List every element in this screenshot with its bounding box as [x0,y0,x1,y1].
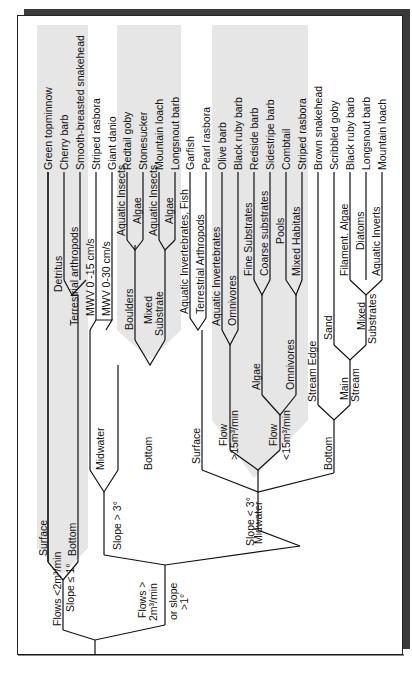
condition-label: Flows <2m³/min [51,551,63,626]
condition-label: Slope > 3° [111,501,123,550]
leaf-label: Stonesucker [137,111,149,170]
leaf-label: Giant danio [106,116,118,170]
food-label: Terrestrial Arthropods [194,214,206,314]
food-label: Aquatic Invertebrates, Fish [178,189,190,314]
velocity-label: MWV 0-30 cm/s [100,241,112,316]
leaf-label: Pearl rasbora [200,107,212,170]
leaf-label: Brown snakehead [312,86,324,170]
leaf-label: Mountain loach [153,99,165,170]
leaf-label: Green topminnow [42,87,54,170]
leaf-label: Black ruby barb [344,97,356,170]
fish-habitat-tree: Green topminnow Cherry barb Smooth-breas… [0,0,412,679]
substrate-label: Coarse substrates [258,191,270,276]
leaf-label: Redtail goby [121,111,133,170]
leaf-label: Combtail [280,129,292,170]
habitat-label: Surface [37,520,49,556]
habitat-label: Surface [190,428,202,464]
food-label: Filament. Algae [338,203,350,276]
leaf-label: Redside barb [248,107,260,170]
leaf-label: Olive barb [216,122,228,170]
condition-label: 2m³/min [147,583,159,621]
substrate-label: Pools [274,218,286,244]
food-label: Aquatic Inverts [370,207,382,276]
substrate-label: Mixed Habitats [290,207,302,276]
food-label: Algae [250,363,262,390]
leaf-label: Garfish [184,136,196,170]
leaf-label: Longsnout barb [169,97,181,170]
food-label: Terrestrial arthropods [68,227,80,326]
habitat-label: Midwater [252,501,264,544]
leaf-label: Mountain loach [376,99,388,170]
food-label: Aquatic Insects [147,165,159,236]
leaf-label: Scribbled goby [328,100,340,170]
substrate-label: Substrates [366,294,378,344]
habitat-label: Bottom [322,436,334,470]
leaf-label: Cherry barb [58,114,70,170]
food-label: Omnivores [226,275,238,326]
condition-label: Slope ≤ 1° [64,564,76,613]
food-label: Diatoms [354,211,366,250]
habitat-label: Bottom [66,522,78,556]
food-label: Detritus [52,256,64,292]
food-label: Aquatic Invertebrates [210,227,222,326]
habitat-label: Bottom [142,436,154,470]
food-label: Omnivores [284,339,296,390]
substrate-label: Sand [322,315,334,340]
flow-label: Flow [267,423,279,446]
leaf-label: Sidestripe barb [264,99,276,170]
zone-label: Stream Edge [306,341,318,402]
leaf-label: Smooth-breasted snakehead [74,35,86,170]
zone-label: Stream [349,368,361,402]
leaf-label: Striped rasbora [296,98,308,170]
food-label: Algae [163,197,175,224]
flow-label: <15m³/min [280,410,292,460]
leaf-label: Black ruby barb [232,97,244,170]
branch-labels: Flows <2m³/min Slope ≤ 1° Flows > 2m³/mi… [37,165,382,626]
flow-label: >15m³/min [228,410,240,460]
substrate-label: Fine Substrates [242,202,254,276]
leaf-label: Longsnout barb [360,97,372,170]
velocity-label: MWV 0 -15 cm/s [84,238,96,316]
leaf-label: Striped rasbora [90,98,102,170]
food-label: Aquatic Insects [115,165,127,236]
food-label: Algae [131,197,143,224]
substrate-label: Boulders [123,289,135,330]
condition-label: >1° [178,594,190,610]
substrate-label: Substrate [153,291,165,336]
habitat-label: Midwater [94,427,106,470]
